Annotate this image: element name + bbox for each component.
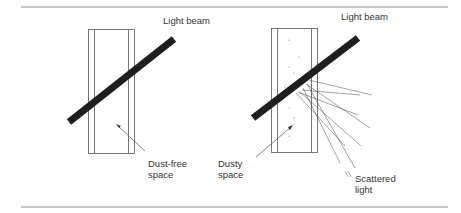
dusty-space-label: Dusty space xyxy=(218,158,243,180)
light-beam-right xyxy=(253,38,358,118)
scattered-light-rays xyxy=(296,80,372,168)
dust-free-arrow xyxy=(116,124,145,151)
diagram-canvas: Light beam Dust-free space Light beam Du… xyxy=(0,0,461,213)
light-beam-left xyxy=(69,39,174,122)
light-beam-label-left: Light beam xyxy=(163,15,210,26)
scattered-light-label: Scattered light xyxy=(355,173,396,195)
dust-free-space-label: Dust-free space xyxy=(148,158,187,180)
light-beam-label-right: Light beam xyxy=(341,11,388,22)
scatter-label-tick xyxy=(345,171,351,177)
